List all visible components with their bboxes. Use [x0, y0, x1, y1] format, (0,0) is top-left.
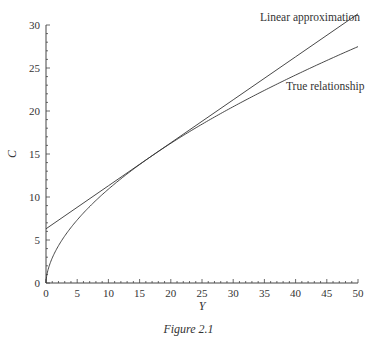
- y-tick-label: 15: [29, 148, 41, 160]
- x-tick-label: 15: [134, 287, 146, 299]
- axes: 05101520253035404550051015202530YC: [5, 19, 364, 313]
- x-tick-label: 35: [259, 287, 271, 299]
- x-tick-label: 0: [43, 287, 49, 299]
- true-relationship-label: True relationship: [286, 80, 365, 93]
- y-tick-label: 20: [29, 105, 41, 117]
- y-tick-label: 0: [35, 277, 41, 289]
- y-tick-label: 5: [35, 234, 41, 246]
- x-axis-label: Y: [199, 299, 207, 313]
- x-tick-label: 20: [165, 287, 177, 299]
- x-tick-label: 45: [321, 287, 333, 299]
- x-tick-label: 50: [353, 287, 365, 299]
- linear-approximation-line: [46, 14, 358, 229]
- y-axis-label: C: [5, 149, 19, 158]
- x-tick-label: 40: [290, 287, 302, 299]
- figure-caption: Figure 2.1: [0, 322, 377, 337]
- x-tick-label: 5: [74, 287, 80, 299]
- y-tick-label: 10: [29, 191, 41, 203]
- x-tick-label: 30: [228, 287, 240, 299]
- y-tick-label: 30: [29, 19, 41, 31]
- curves: [46, 14, 358, 283]
- x-tick-label: 10: [103, 287, 115, 299]
- labels: Linear approximationTrue relationship: [260, 11, 365, 93]
- y-tick-label: 25: [29, 62, 41, 74]
- x-tick-label: 25: [197, 287, 209, 299]
- linear-approximation-label: Linear approximation: [260, 11, 360, 24]
